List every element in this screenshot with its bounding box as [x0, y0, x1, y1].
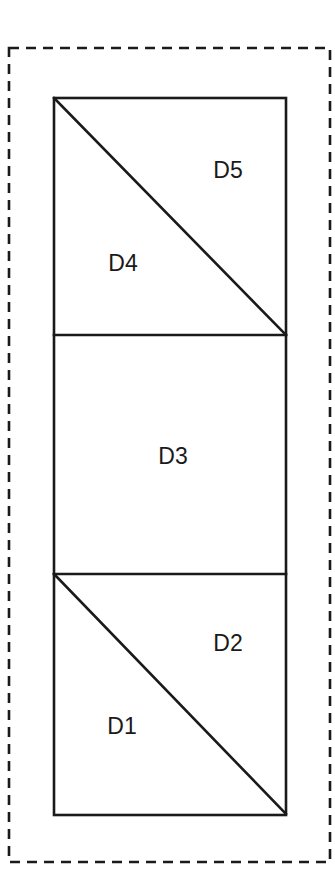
domain-label-D4: D4: [108, 250, 138, 276]
domain-label-D3: D3: [158, 443, 187, 469]
domain-label-D5: D5: [213, 157, 242, 183]
domain-decomposition-diagram: D5 D4 D3 D2 D1: [0, 0, 335, 886]
diagram-canvas: D5 D4 D3 D2 D1: [0, 0, 335, 886]
domain-label-D1: D1: [107, 713, 136, 739]
domain-label-D2: D2: [213, 630, 242, 656]
